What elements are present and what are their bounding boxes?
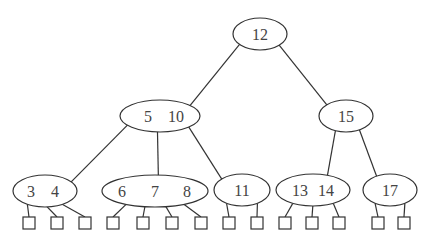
null-leaf: [251, 217, 263, 229]
leaf-edge: [375, 204, 378, 217]
null-leaf: [107, 217, 119, 229]
tree-node: [120, 100, 200, 132]
tree-edge: [359, 129, 377, 177]
null-leaf: [223, 217, 235, 229]
tree-edge: [327, 130, 335, 176]
null-leaf: [306, 217, 318, 229]
null-leaf: [195, 217, 207, 229]
node-key: 11: [234, 182, 249, 199]
node-key: 3: [27, 183, 35, 200]
null-leaf: [166, 217, 178, 229]
tree-edge: [188, 126, 222, 180]
null-leaf: [137, 217, 149, 229]
tree-node: [276, 174, 350, 206]
leaf-edge: [404, 204, 405, 217]
node-key: 4: [51, 183, 59, 200]
tree-edge: [157, 131, 158, 176]
tree-node: [13, 175, 77, 207]
node-key: 7: [151, 183, 159, 200]
node-key: 5: [144, 108, 152, 125]
null-leaf: [51, 217, 63, 229]
node-key: 15: [338, 108, 354, 125]
b-tree-diagram: 12510153467811131417: [0, 0, 436, 243]
node-key: 10: [168, 108, 184, 125]
leaf-edge: [63, 205, 85, 217]
null-leaf: [23, 217, 35, 229]
tree-edge: [70, 124, 128, 182]
null-leaf: [372, 217, 384, 229]
node-key: 12: [252, 26, 268, 43]
leaf-edge: [227, 204, 229, 217]
node-key: 17: [382, 182, 398, 199]
leaf-edge: [113, 205, 126, 217]
leaf-edge: [285, 204, 293, 217]
leaf-edge: [333, 204, 339, 217]
leaf-edge: [27, 205, 29, 217]
node-key: 14: [318, 182, 334, 199]
node-key: 8: [183, 183, 191, 200]
leaf-edge: [184, 205, 201, 217]
node-key: 6: [118, 183, 126, 200]
null-leaf: [333, 217, 345, 229]
tree-edge: [189, 44, 240, 107]
node-key: 13: [292, 182, 308, 199]
tree-edge: [279, 44, 328, 105]
null-leaf: [279, 217, 291, 229]
null-leaf: [79, 217, 91, 229]
null-leaf: [398, 217, 410, 229]
